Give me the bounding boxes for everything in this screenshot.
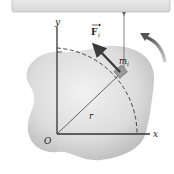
suspension-tick	[122, 12, 126, 16]
force-label-subscript: i	[98, 31, 100, 38]
x-axis-label: x	[153, 129, 158, 139]
top-panel	[12, 0, 170, 12]
diagram-svg: y x O r m i F i	[0, 0, 174, 174]
vector-overarrow-head	[99, 24, 101, 27]
mass-label-main: m	[119, 56, 127, 66]
rotation-direction-arrow	[146, 37, 165, 62]
rotation-diagram: y x O r m i F i	[0, 0, 174, 174]
origin-label: O	[44, 136, 52, 146]
force-label-main: F	[91, 27, 98, 37]
y-axis-label: y	[54, 17, 61, 27]
force-label: F i	[91, 24, 101, 39]
mass-label-subscript: i	[127, 60, 129, 67]
